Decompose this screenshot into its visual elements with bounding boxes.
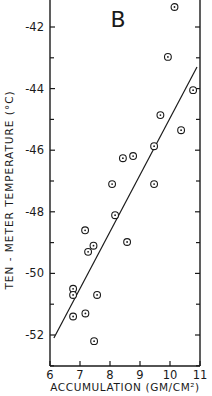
data-point bbox=[171, 4, 178, 11]
data-point bbox=[109, 181, 116, 188]
data-point bbox=[82, 310, 89, 317]
svg-text:-42: -42 bbox=[25, 20, 44, 34]
y-axis-label: TEN - METER TEMPERATURE (°C) bbox=[3, 90, 15, 290]
data-points bbox=[70, 4, 197, 345]
data-point bbox=[190, 87, 197, 94]
svg-text:-44: -44 bbox=[25, 82, 44, 96]
panel-label: B bbox=[110, 7, 125, 32]
data-point bbox=[82, 227, 89, 234]
svg-text:7: 7 bbox=[76, 368, 83, 382]
plot-frame bbox=[50, 0, 200, 366]
data-point bbox=[94, 292, 101, 299]
svg-text:11: 11 bbox=[193, 368, 208, 382]
svg-text:-46: -46 bbox=[25, 143, 44, 157]
x-axis-ticks: 67891011 bbox=[46, 361, 207, 382]
x-axis-label: ACCUMULATION (GM/CM²) bbox=[50, 381, 200, 393]
data-point bbox=[178, 127, 185, 134]
svg-text:9: 9 bbox=[136, 368, 143, 382]
data-point bbox=[157, 112, 164, 119]
y-axis-ticks: -42-44-46-48-50-52 bbox=[25, 20, 200, 366]
data-point bbox=[90, 242, 97, 249]
data-point bbox=[130, 153, 137, 160]
scatter-chart: -42-44-46-48-50-52 67891011 B ACCUMULATI… bbox=[0, 0, 212, 396]
data-point bbox=[124, 239, 131, 246]
data-point bbox=[151, 181, 158, 188]
data-point bbox=[112, 212, 119, 219]
svg-text:10: 10 bbox=[163, 368, 178, 382]
svg-text:6: 6 bbox=[46, 368, 53, 382]
svg-text:-48: -48 bbox=[25, 205, 44, 219]
svg-text:8: 8 bbox=[106, 368, 113, 382]
data-point bbox=[120, 155, 127, 162]
data-point bbox=[151, 143, 158, 150]
data-point bbox=[165, 53, 172, 60]
data-point bbox=[70, 313, 77, 320]
data-point bbox=[70, 292, 77, 299]
svg-text:-52: -52 bbox=[25, 328, 44, 342]
data-point bbox=[85, 248, 92, 255]
svg-text:-50: -50 bbox=[25, 266, 44, 280]
data-point bbox=[91, 338, 98, 345]
